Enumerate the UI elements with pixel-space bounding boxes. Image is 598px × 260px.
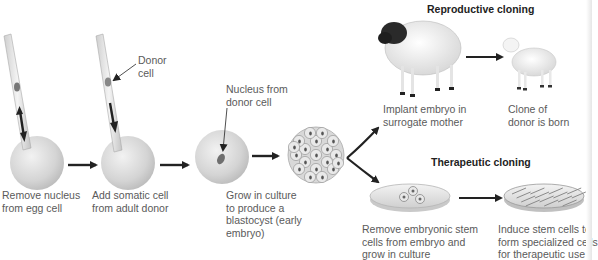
blastomere-nucleus [304, 148, 307, 152]
blastomere-nucleus [332, 140, 335, 144]
blastomere-nucleus [337, 162, 340, 166]
egg-cell-2 [101, 136, 155, 190]
pipette-2-icon [96, 34, 122, 152]
page-edge-shadow [586, 0, 592, 260]
caption-line: Remove nucleus [2, 189, 80, 202]
caption-line: from adult donor [92, 202, 168, 215]
caption-line: blastocyst (early [226, 214, 302, 227]
callout-line: Donor [138, 54, 167, 67]
caption-line: donor is born [508, 116, 569, 129]
blastomere-nucleus [293, 146, 296, 150]
cloned-lamb [503, 38, 556, 91]
blastocyst [288, 127, 344, 183]
blastomere-nucleus [309, 132, 312, 136]
petri-dish-specialized-cells [504, 184, 586, 212]
blastomere-nucleus [315, 168, 318, 172]
caption-clone-born: Clone of donor is born [508, 103, 569, 128]
blastomere-nucleus [321, 132, 324, 136]
caption-line: Add somatic cell [92, 189, 168, 202]
callout-line: Nucleus from [226, 83, 288, 96]
surrogate-sheep [378, 21, 461, 97]
caption-line: for therapeutic use [498, 248, 598, 260]
caption-line: surrogate mother [383, 116, 466, 129]
reproductive-heading: Reproductive cloning [427, 3, 534, 15]
donor-cell-icon [105, 78, 111, 87]
branch-arrows-icon [347, 128, 378, 182]
callout-line: donor cell [226, 96, 288, 109]
caption-line: embryo) [226, 227, 302, 240]
caption-line: Grow in culture [226, 189, 302, 202]
caption-line: Clone of [508, 103, 569, 116]
caption-line: Induce stem cells to [498, 223, 598, 236]
blastomere-nucleus [332, 168, 335, 172]
blastomere-nucleus [298, 168, 301, 172]
blastomere-nucleus [326, 148, 329, 152]
caption-implant-embryo: Implant embryo in surrogate mother [383, 103, 466, 128]
blastomere-nucleus [321, 176, 324, 180]
caption-line: form specialized cells [498, 236, 598, 249]
callout-line: cell [138, 67, 167, 80]
blastomere-nucleus [304, 161, 307, 165]
blastomere-nucleus [295, 154, 298, 158]
caption-grow-culture: Grow in culture to produce a blastocyst … [226, 189, 302, 239]
blastomere-nucleus [326, 161, 329, 165]
caption-induce-stem-cells: Induce stem cells to form specialized ce… [498, 223, 598, 260]
caption-line: Remove embryonic stem [362, 223, 478, 236]
pipette-1-icon [4, 34, 31, 150]
caption-line: Implant embryo in [383, 103, 466, 116]
caption-remove-nucleus: Remove nucleus from egg cell [2, 189, 80, 214]
blastomere-nucleus [335, 154, 338, 158]
nucleus-callout: Nucleus from donor cell [226, 83, 288, 108]
blastomere-nucleus [298, 140, 301, 144]
removed-nucleus-icon [14, 83, 20, 92]
donor-cell-pointer [114, 64, 136, 80]
blastomere-nucleus [309, 176, 312, 180]
donor-cell-callout: Donor cell [138, 54, 167, 79]
blastomere-nucleus [315, 140, 318, 144]
caption-add-somatic: Add somatic cell from adult donor [92, 189, 168, 214]
petri-dish-stem-cells [370, 184, 450, 212]
egg-cell-1 [10, 136, 64, 190]
therapeutic-heading: Therapeutic cloning [431, 156, 531, 168]
caption-line: to produce a [226, 202, 302, 215]
fused-cell [195, 130, 249, 184]
caption-line: grow in culture [362, 248, 478, 260]
caption-remove-stem-cells: Remove embryonic stem cells from embryo … [362, 223, 478, 260]
caption-line: from egg cell [2, 202, 80, 215]
caption-line: cells from embryo and [362, 236, 478, 249]
blastomere-nucleus [315, 154, 318, 158]
